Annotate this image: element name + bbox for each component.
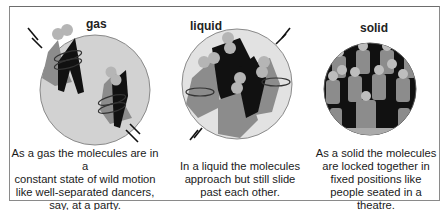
caption-line: past each other.	[175, 186, 305, 199]
caption-line: fixed positions like	[312, 173, 440, 186]
gas-caption: As a gas the molecules are in a constant…	[10, 147, 160, 210]
caption-line: say, at a party.	[10, 199, 160, 210]
caption-line: are locked together in	[312, 160, 440, 173]
solid-label: solid	[360, 21, 388, 35]
caption-line: constant state of wild motion	[10, 173, 160, 186]
caption-line: approach but still slide	[175, 173, 305, 186]
caption-line: As a gas the molecules are in a	[10, 147, 160, 173]
caption-line: people seated in a theatre.	[312, 186, 440, 210]
solid-caption: As a solid the molecules are locked toge…	[312, 147, 440, 210]
caption-line: As a solid the molecules	[312, 147, 440, 160]
caption-line: like well-separated dancers,	[10, 186, 160, 199]
caption-line: In a liquid the molecules	[175, 160, 305, 173]
liquid-caption: In a liquid the molecules approach but s…	[175, 160, 305, 199]
liquid-label: liquid	[190, 19, 222, 33]
liquid-illustration	[182, 28, 292, 140]
gas-label: gas	[86, 17, 107, 31]
gas-illustration	[28, 24, 150, 145]
solid-illustration	[324, 41, 416, 138]
